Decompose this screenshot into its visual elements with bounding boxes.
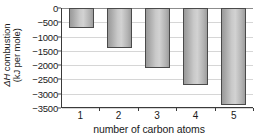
x-axis-tick-mark <box>176 108 177 111</box>
y-axis-tick-label: −500 <box>22 18 58 27</box>
y-axis-tick-label: −2000 <box>22 61 58 70</box>
bar-2[interactable] <box>107 8 132 48</box>
bar-slot <box>177 8 215 107</box>
y-axis-tick-label: −1000 <box>22 32 58 41</box>
y-axis-tick-mark <box>58 36 61 37</box>
y-axis-tick-label: −2500 <box>22 75 58 84</box>
y-axis-tick-mark <box>58 93 61 94</box>
y-axis-tick-label: −1500 <box>22 46 58 55</box>
bar-slot <box>215 8 253 107</box>
bar-slot <box>100 8 138 107</box>
x-axis-tick-label: 3 <box>138 110 176 123</box>
x-axis-tick-label: 1 <box>61 110 99 123</box>
plot-area <box>61 8 253 108</box>
y-axis-tick-label: 0 <box>22 4 58 13</box>
x-axis-tick-mark <box>138 108 139 111</box>
x-axis-tick-labels: 12345 <box>61 110 253 123</box>
y-axis-tick-mark <box>58 22 61 23</box>
y-axis-tick-labels: 0−500−1000−1500−2000−2500−3000−3500 <box>22 4 58 108</box>
bar-1[interactable] <box>69 8 94 28</box>
bar-slot <box>138 8 176 107</box>
y-axis-tick-mark <box>58 79 61 80</box>
bar-3[interactable] <box>145 8 170 68</box>
y-axis-tick-label: −3500 <box>22 104 58 113</box>
y-axis-tick-mark <box>58 8 61 9</box>
bar-5[interactable] <box>221 8 246 105</box>
x-axis-tick-mark <box>253 108 254 111</box>
x-axis-tick-mark <box>215 108 216 111</box>
x-axis-tick-label: 4 <box>176 110 214 123</box>
x-axis-tick-label: 5 <box>215 110 253 123</box>
x-axis-tick-label: 2 <box>99 110 137 123</box>
y-axis-tick-mark <box>58 108 61 109</box>
bar-slot <box>62 8 100 107</box>
y-axis-tick-label: −3000 <box>22 89 58 98</box>
bars-layer <box>62 8 253 107</box>
x-axis-tick-mark <box>99 108 100 111</box>
y-axis-tick-mark <box>58 50 61 51</box>
bar-4[interactable] <box>183 8 208 85</box>
combustion-enthalpy-bar-chart: ΔH combustion (kJ per mole) 0−500−1000−1… <box>0 0 258 139</box>
y-axis-tick-mark <box>58 65 61 66</box>
x-axis-title: number of carbon atoms <box>40 123 258 135</box>
gridline <box>62 108 253 109</box>
